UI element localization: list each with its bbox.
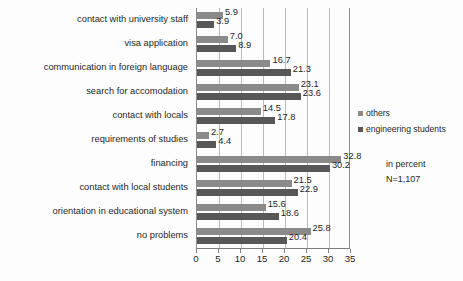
legend-label: engineering students (366, 124, 446, 134)
axis-tick-label: 0 (193, 253, 198, 264)
category-label: search for accomodation (0, 80, 193, 104)
bar-eng (197, 165, 330, 172)
legend-item-others: others (358, 108, 462, 118)
bar-others (197, 108, 261, 115)
bar-value-label: 17.8 (275, 112, 295, 122)
bar-others (197, 132, 209, 139)
bar-eng (197, 45, 236, 52)
bar-value-label: 3.9 (214, 16, 229, 26)
axis-tick-label: 25 (301, 253, 312, 264)
category-label: contact with university staff (0, 8, 193, 32)
category-label: requirements of studies (0, 128, 193, 152)
bar-row: 15.618.6 (197, 200, 349, 224)
bar-others (197, 204, 266, 211)
bar-row: 7.08.9 (197, 32, 349, 56)
x-axis-tick-labels: 05101520253035 (196, 253, 350, 269)
bar-row: 2.74.4 (197, 128, 349, 152)
bar-eng (197, 93, 301, 100)
axis-tick-label: 5 (215, 253, 220, 264)
category-label: orientation in educational system (0, 200, 193, 224)
axis-tick-label: 20 (279, 253, 290, 264)
bar-row: 5.93.9 (197, 8, 349, 32)
plot-area: 5.93.97.08.916.721.323.123.614.517.82.74… (196, 8, 350, 248)
bar-row: 21.522.9 (197, 176, 349, 200)
bar-others (197, 180, 292, 187)
bar-row: 23.123.6 (197, 80, 349, 104)
axis-tick-label: 30 (323, 253, 334, 264)
category-label: no problems (0, 224, 193, 248)
bar-others (197, 156, 341, 163)
bar-value-label: 30.2 (330, 160, 350, 170)
bar-value-label: 21.3 (291, 64, 311, 74)
bar-chart: contact with university staffvisa applic… (0, 0, 463, 281)
axis-tick-label: 15 (257, 253, 268, 264)
category-axis-labels: contact with university staffvisa applic… (0, 8, 193, 248)
bar-others (197, 60, 270, 67)
unit-note: in percent (386, 159, 462, 169)
bar-value-label: 20.4 (287, 232, 307, 242)
legend-swatch-icon (358, 111, 363, 116)
axis-tick-label: 35 (345, 253, 356, 264)
bar-value-label: 4.4 (216, 136, 231, 146)
category-label: communication in foreign language (0, 56, 193, 80)
sample-size-note: N=1,107 (386, 174, 462, 184)
legend-label: others (366, 108, 390, 118)
bar-row: 32.830.2 (197, 152, 349, 176)
bar-row: 25.820.4 (197, 224, 349, 248)
bar-others (197, 36, 228, 43)
chart-notes: in percent N=1,107 (386, 159, 462, 189)
bar-eng (197, 141, 216, 148)
bar-others (197, 84, 299, 91)
axis-tick-label: 10 (235, 253, 246, 264)
bar-eng (197, 69, 291, 76)
category-label: financing (0, 152, 193, 176)
bar-eng (197, 189, 298, 196)
bar-eng (197, 213, 279, 220)
bar-eng (197, 237, 287, 244)
category-label: contact with locals (0, 104, 193, 128)
bar-value-label: 16.7 (270, 55, 290, 65)
legend: othersengineering students (358, 108, 462, 140)
bar-row: 14.517.8 (197, 104, 349, 128)
bar-value-label: 8.9 (236, 40, 251, 50)
bar-value-label: 22.9 (298, 184, 318, 194)
legend-swatch-icon (358, 127, 363, 132)
category-label: contact with local students (0, 176, 193, 200)
bar-rows: 5.93.97.08.916.721.323.123.614.517.82.74… (197, 8, 349, 248)
bar-value-label: 23.6 (301, 88, 321, 98)
bar-value-label: 18.6 (279, 208, 299, 218)
category-label: visa application (0, 32, 193, 56)
bar-row: 16.721.3 (197, 56, 349, 80)
bar-value-label: 25.8 (311, 223, 331, 233)
bar-eng (197, 117, 275, 124)
legend-item-eng: engineering students (358, 124, 462, 134)
bar-eng (197, 21, 214, 28)
